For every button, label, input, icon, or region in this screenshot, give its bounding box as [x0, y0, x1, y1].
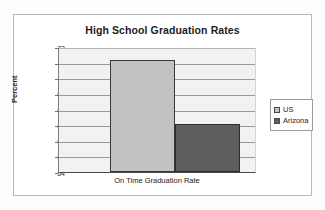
chart-legend: USArizona [270, 99, 313, 131]
legend-swatch-icon-arizona [274, 118, 280, 124]
bar-arizona [175, 124, 240, 172]
legend-label: US [283, 105, 293, 114]
y-axis-title: Percent [10, 75, 19, 103]
y-tick-mark-64 [55, 173, 58, 174]
gridline-72 [59, 48, 255, 49]
bar-us [110, 60, 175, 173]
legend-label: Arizona [283, 116, 308, 125]
legend-swatch-icon-us [274, 107, 280, 113]
chart-frame: High School Graduation Rates Percent 727… [13, 14, 312, 196]
x-axis-label: On Time Graduation Rate [58, 176, 256, 185]
chart-title: High School Graduation Rates [14, 24, 311, 36]
plot-area [58, 48, 256, 173]
legend-item-us: US [274, 104, 308, 115]
chart-screenshot: High School Graduation Rates Percent 727… [0, 0, 325, 210]
legend-item-arizona: Arizona [274, 115, 308, 126]
